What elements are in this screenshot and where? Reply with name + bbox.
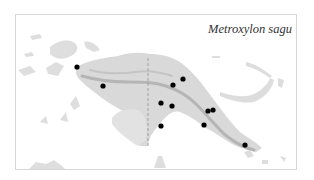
occurrence-dot[interactable] [158, 100, 163, 105]
occurrence-dot[interactable] [170, 82, 175, 87]
landmass-south [112, 109, 147, 146]
occurrence-dot[interactable] [180, 76, 185, 81]
map-title: Metroxylon sagu [208, 22, 292, 37]
occurrence-dot[interactable] [74, 64, 79, 69]
occurrence-dot[interactable] [205, 108, 210, 113]
occurrence-dot[interactable] [242, 142, 247, 147]
landmass-new-guinea [76, 53, 262, 152]
occurrence-dot[interactable] [169, 103, 174, 108]
occurrence-dot[interactable] [158, 123, 163, 128]
occurrence-dot[interactable] [201, 122, 206, 127]
occurrence-dot[interactable] [100, 83, 105, 88]
occurrence-dot[interactable] [210, 107, 215, 112]
